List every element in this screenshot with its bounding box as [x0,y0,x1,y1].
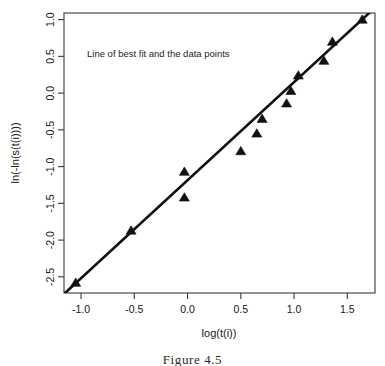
y-tick-label: -1.5 [44,194,56,212]
y-axis-tick-labels: 1.00.50.0-0.5-1.0-1.5-2.0-2.5 [44,12,56,286]
y-axis-ticks [58,20,64,277]
x-axis-ticks [81,293,347,299]
data-point [282,99,292,107]
data-point [252,129,262,137]
y-tick-label: 1.0 [44,12,56,27]
plot-annotation: Line of best fit and the data points [87,48,230,59]
figure-caption: Figure 4.5 [0,352,385,366]
y-tick-label: -2.0 [44,231,56,249]
scatter-plot: -1.0-0.50.00.51.01.5 1.00.50.0-0.5-1.0-1… [0,0,385,366]
y-tick-label: -0.5 [44,121,56,139]
x-axis-title: log(t(i)) [202,327,237,339]
x-tick-label: -1.0 [72,303,90,315]
data-point [179,193,189,201]
y-tick-label: 0.0 [44,86,56,101]
data-point [179,167,189,175]
x-tick-label: 1.0 [287,303,302,315]
x-axis-tick-labels: -1.0-0.50.00.51.01.5 [72,303,355,315]
x-tick-label: 0.0 [180,303,195,315]
data-point [236,146,246,154]
data-point [327,37,337,45]
x-tick-label: 1.5 [340,303,355,315]
y-tick-label: -1.0 [44,157,56,175]
y-tick-label: 0.5 [44,49,56,64]
y-tick-label: -2.5 [44,268,56,286]
x-tick-label: -0.5 [125,303,143,315]
x-tick-label: 0.5 [233,303,248,315]
figure-container: -1.0-0.50.00.51.01.5 1.00.50.0-0.5-1.0-1… [0,0,385,366]
y-axis-title: ln(-ln(s(t(i)))) [9,122,21,183]
